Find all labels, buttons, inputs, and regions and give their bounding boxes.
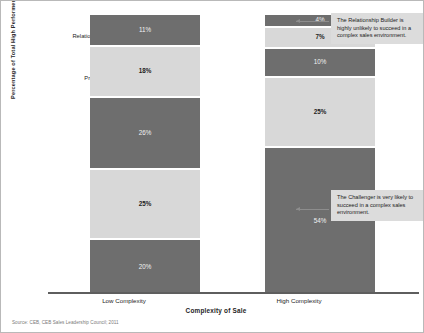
x-tick-label-high-complexity: High Complexity [223,297,375,304]
bar-column-high-complexity[interactable]: 4% 7% 10% 25% 54% [265,15,375,294]
segment-low-lone-wolf[interactable]: 25% [90,170,200,238]
segment-value-low-relationship-builder: 11% [139,27,151,33]
callout-arrow-challenger [296,209,329,210]
callout-challenger: The Challenger is very likely to succeed… [331,190,423,221]
segment-value-high-challenger: 54% [314,218,327,224]
segment-value-low-hard-worker: 26% [139,130,152,136]
segment-low-challenger[interactable]: 20% [90,240,200,294]
segment-low-problem-solver[interactable]: 18% [90,47,200,96]
segment-high-hard-worker[interactable]: 10% [265,49,375,76]
callout-relationship-builder: The Relationship Builder is highly unlik… [331,13,423,44]
segment-low-hard-worker[interactable]: 26% [90,98,200,168]
source-note: Source: CEB, CEB Sales Leadership Counci… [12,320,119,325]
y-axis-title: Percentage of Total High Performers [10,0,16,99]
x-tick-label-low-complexity: Low Complexity [48,297,200,304]
segment-value-low-challenger: 20% [139,264,152,270]
segment-value-high-lone-wolf: 25% [314,109,327,115]
bar-column-low-complexity[interactable]: 11% 18% 26% 25% 20% [90,15,200,294]
chart-figure: Percentage of Total High Performers Rela… [0,0,424,333]
segment-high-lone-wolf[interactable]: 25% [265,78,375,146]
plot-area: Relationship Builder Problem Solver Hard… [48,13,419,294]
callout-arrow-relationship-builder [296,21,329,22]
segment-value-high-hard-worker: 10% [314,59,327,65]
segment-value-low-problem-solver: 18% [139,68,152,74]
segment-low-relationship-builder[interactable]: 11% [90,15,200,45]
segment-value-low-lone-wolf: 25% [139,201,152,207]
x-axis-line [48,292,419,294]
x-axis-title: Complexity of Sale [101,307,331,314]
segment-value-high-problem-solver: 7% [315,34,324,40]
segment-high-challenger[interactable]: 54% [265,148,375,294]
